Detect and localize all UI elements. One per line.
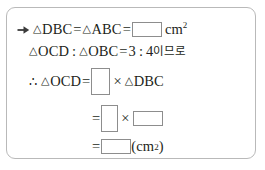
arrow-right-icon (17, 24, 30, 36)
triangle-label-abc: ABC (92, 22, 122, 37)
multiplication-sign: × (110, 74, 124, 89)
answer-blank-1[interactable] (132, 22, 162, 37)
ratio-colon: : (69, 44, 79, 59)
equals-sign: = (91, 111, 101, 126)
answer-blank-2[interactable] (91, 68, 110, 95)
equals-sign: = (81, 74, 91, 89)
unit-paren-close: ) (159, 139, 164, 154)
ratio-value-b: 4 (146, 44, 153, 59)
korean-conjunction: 이므로 (153, 46, 185, 58)
solution-line-1: △ DBC = △ ABC = cm2 (17, 22, 190, 37)
worksheet-panel: △ DBC = △ ABC = cm2 △ OCD : △ OBC = 3 : … (6, 7, 256, 159)
answer-blank-4[interactable] (133, 111, 163, 126)
triangle-symbol: △ (29, 45, 38, 56)
triangle-label-obc: OBC (88, 44, 118, 59)
multiplication-sign: × (118, 111, 132, 126)
triangle-label-dbc: DBC (134, 74, 164, 89)
triangle-label-ocd: OCD (38, 44, 69, 59)
solution-line-2: △ OCD : △ OBC = 3 : 4 이므로 (29, 44, 186, 59)
solution-line-5: = ( cm 2 ) (91, 139, 164, 154)
answer-blank-3[interactable] (101, 105, 118, 132)
triangle-symbol: △ (33, 23, 42, 34)
equals-sign: = (91, 139, 101, 154)
triangle-symbol: △ (82, 23, 91, 34)
ratio-colon: : (136, 44, 146, 59)
equals-sign: = (122, 22, 132, 37)
ratio-value-a: 3 (129, 44, 136, 59)
solution-line-3: ∴ △ OCD = × △ DBC (29, 68, 164, 95)
triangle-label-dbc: DBC (42, 22, 72, 37)
unit-cm-squared: cm2 (162, 22, 191, 37)
therefore-symbol: ∴ (29, 75, 41, 88)
triangle-label-ocd: OCD (50, 74, 81, 89)
equals-sign: = (118, 44, 128, 59)
equals-sign: = (72, 22, 82, 37)
triangle-symbol: △ (125, 75, 134, 86)
triangle-symbol: △ (79, 45, 88, 56)
solution-line-4: = × (91, 105, 163, 132)
unit-cm: cm (136, 139, 154, 154)
triangle-symbol: △ (41, 75, 50, 86)
answer-blank-5[interactable] (101, 139, 131, 154)
